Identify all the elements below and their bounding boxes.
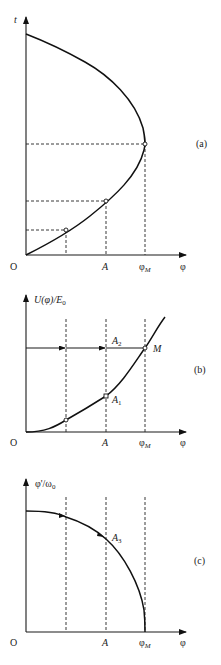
x-tick-phiM: φM xyxy=(139,637,152,650)
y-axis-label: U(φ)/E0 xyxy=(34,294,66,307)
label-A1: A1 xyxy=(111,394,122,407)
panel-tag: (c) xyxy=(194,555,205,567)
panel-c: φ'/ω0 A3 (c) O A φM φ xyxy=(10,478,205,650)
direction-arrow-icon xyxy=(97,532,104,537)
panel-tag: (a) xyxy=(196,138,207,150)
panel-b: U(φ)/E0 A2 M A1 (b) O A φM φ xyxy=(10,294,206,450)
curve-point xyxy=(64,228,68,232)
trajectory-curve xyxy=(26,34,145,255)
panel-tag: (b) xyxy=(194,364,206,376)
x-axis-label: φ xyxy=(180,261,186,272)
panel-a: t (a) O A φM φ xyxy=(10,14,207,274)
x-tick-A: A xyxy=(101,261,109,272)
x-tick-A: A xyxy=(101,637,109,648)
point-M xyxy=(143,346,147,350)
phase-diagram-figure: t (a) O A φM φ U(φ)/E0 A2 M A1 (b) O A φ… xyxy=(0,0,221,665)
point-A1 xyxy=(104,394,108,398)
origin-label: O xyxy=(10,637,17,648)
velocity-curve xyxy=(26,511,145,632)
x-axis-label: φ xyxy=(180,637,186,648)
x-axis-label: φ xyxy=(180,437,186,448)
origin-label: O xyxy=(10,437,17,448)
curve-point-apex xyxy=(143,142,147,146)
origin-label: O xyxy=(10,261,17,272)
label-A2: A2 xyxy=(111,335,122,348)
curve-point xyxy=(104,199,108,203)
x-tick-phiM: φM xyxy=(139,437,152,450)
curve-point xyxy=(64,418,68,422)
label-M: M xyxy=(152,343,162,354)
label-A3: A3 xyxy=(111,532,122,545)
y-axis-label: φ'/ω0 xyxy=(35,478,56,491)
x-tick-phiM: φM xyxy=(139,261,152,274)
potential-curve xyxy=(26,317,165,432)
x-tick-A: A xyxy=(101,437,109,448)
y-axis-label: t xyxy=(14,14,17,25)
